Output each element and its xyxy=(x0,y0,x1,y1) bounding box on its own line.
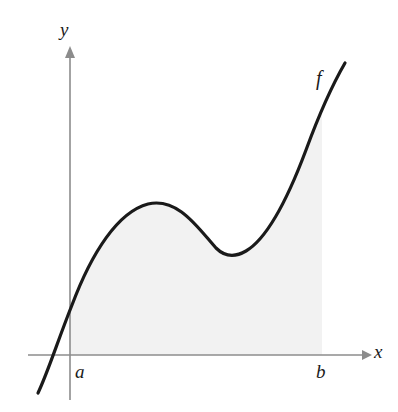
function-name-label-f: f xyxy=(316,68,322,88)
figure-container: y x a b f xyxy=(0,0,398,412)
function-graph-svg xyxy=(0,0,398,412)
lower-bound-label-a: a xyxy=(75,362,85,381)
x-axis-arrowhead xyxy=(362,350,372,360)
shaded-area-under-curve xyxy=(70,110,322,355)
x-axis-label: x xyxy=(374,342,382,361)
y-axis-label: y xyxy=(60,20,68,39)
y-axis-arrowhead xyxy=(65,46,75,58)
upper-bound-label-b: b xyxy=(316,362,326,381)
